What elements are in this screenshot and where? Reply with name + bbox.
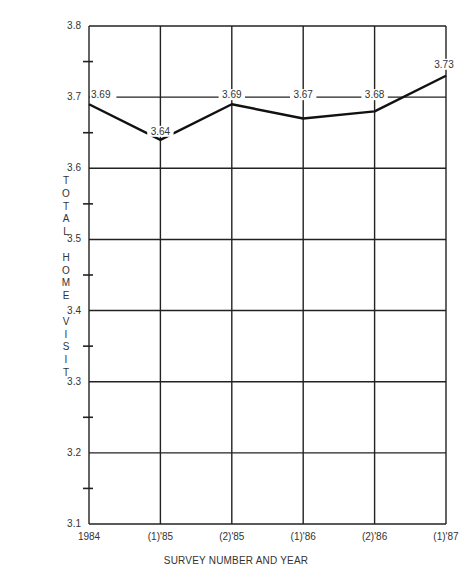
y-tick-label: 3.2: [67, 447, 81, 458]
y-axis-title-letter: H: [60, 252, 72, 265]
data-line: [89, 76, 446, 140]
y-tick-label: 3.6: [67, 162, 81, 173]
x-tick-label: (1)'85: [148, 531, 174, 542]
y-axis-title-letter: T: [60, 175, 72, 188]
data-label: 3.64: [151, 126, 171, 137]
y-axis-title-letter: T: [60, 201, 72, 214]
y-axis-title-letter: [60, 239, 72, 252]
y-axis-title-letter: M: [60, 277, 72, 290]
y-axis-title-letter: I: [60, 354, 72, 367]
y-tick-label: 3.1: [67, 518, 81, 529]
data-label: 3.69: [222, 89, 242, 100]
y-axis-title: TOTAL HOME VISIT: [60, 175, 72, 380]
data-label: 3.73: [434, 59, 454, 70]
x-tick-label: (1)'87: [433, 531, 459, 542]
y-axis-title-letter: T: [60, 367, 72, 380]
x-tick-label: (2)'86: [362, 531, 388, 542]
x-tick-label: 1984: [78, 531, 101, 542]
y-axis-title-letter: [60, 303, 72, 316]
y-axis-title-letter: I: [60, 329, 72, 342]
y-axis-title-letter: E: [60, 290, 72, 303]
y-axis-title-letter: O: [60, 265, 72, 278]
y-axis-title-letter: A: [60, 213, 72, 226]
y-axis-title-letter: L: [60, 226, 72, 239]
y-axis-title-letter: V: [60, 316, 72, 329]
x-tick-label: (2)'85: [219, 531, 245, 542]
data-label: 3.67: [293, 89, 313, 100]
y-axis-title-letter: S: [60, 341, 72, 354]
x-tick-label: (1)'86: [291, 531, 317, 542]
data-label: 3.68: [365, 89, 385, 100]
data-label: 3.69: [91, 89, 111, 100]
x-axis-title: SURVEY NUMBER AND YEAR: [0, 555, 472, 566]
y-tick-label: 3.8: [67, 20, 81, 31]
y-tick-label: 3.7: [67, 91, 81, 102]
y-axis-title-letter: O: [60, 188, 72, 201]
